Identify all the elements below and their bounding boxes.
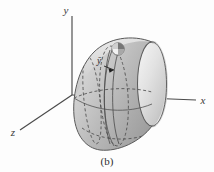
solid-of-revolution-diagram: y x z ȳ (b) (0, 0, 214, 172)
centroid-y-bar-label: ȳ (96, 56, 102, 66)
figure-caption: (b) (101, 155, 114, 168)
z-axis-line (20, 95, 72, 130)
y-axis-label: y (63, 4, 69, 16)
figure-container: y x z ȳ (b) (0, 0, 214, 172)
differential-element-marker (112, 43, 124, 55)
z-axis-label: z (10, 126, 16, 138)
x-axis-label: x (200, 94, 206, 106)
paraboloid-solid (74, 38, 167, 150)
